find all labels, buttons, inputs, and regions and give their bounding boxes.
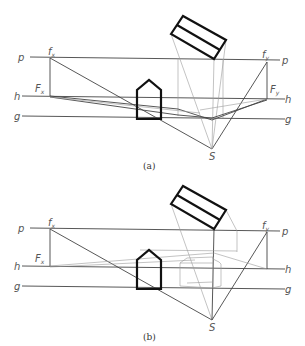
perspective-lines-lower (50, 97, 267, 118)
label-fx: fx (48, 46, 56, 58)
guide-fx-low (50, 260, 195, 267)
label-g-right: g (285, 114, 291, 125)
label-S: S (209, 151, 216, 162)
box-plan-midline (177, 195, 220, 220)
label-p-left: p (17, 52, 24, 63)
projector-3 (212, 40, 226, 149)
label-h-right: h (285, 264, 291, 275)
sightline-S-fx (50, 58, 212, 149)
box-plan-midline (177, 25, 220, 50)
perspective-line-mid2 (200, 99, 267, 110)
sightline-S-fx (50, 229, 212, 320)
guide-fy-roof (214, 253, 267, 269)
projector-1 (171, 34, 212, 149)
label-h-right: h (285, 94, 291, 105)
house-elevation (137, 250, 161, 289)
panel-a: p p h h g g fx fy Fx Fy S (a) (14, 16, 291, 171)
label-p-right: p (281, 55, 288, 66)
guide-top (140, 250, 237, 251)
label-h-left: h (14, 261, 20, 272)
label-Fx: Fx (35, 83, 45, 95)
panel-b: p p h h g g fx fy Fx S (b) (14, 186, 291, 342)
caption-a: (a) (143, 161, 155, 171)
label-g-left: g (14, 111, 20, 122)
picture-plane-line-p (30, 228, 280, 231)
guide-fx-roof (50, 253, 214, 266)
label-p-left: p (17, 223, 24, 234)
label-h-left: h (14, 91, 20, 102)
perspective-diagram: p p h h g g fx fy Fx Fy S (a) (0, 0, 305, 346)
sightline-S-fy (212, 232, 267, 320)
caption-b: (b) (143, 332, 156, 342)
label-g-right: g (285, 284, 291, 295)
projector-3 (226, 210, 237, 231)
sightline-S-fy (212, 62, 267, 149)
label-g-left: g (14, 281, 20, 292)
projected-house (180, 257, 221, 288)
label-p-right: p (281, 226, 288, 237)
perspective-line-mid (50, 97, 200, 113)
picture-plane-line-p (30, 57, 280, 60)
projected-house-base (187, 282, 213, 283)
label-fx: fx (48, 217, 56, 229)
label-Fy: Fy (270, 84, 280, 97)
label-S: S (209, 322, 216, 333)
label-Fx: Fx (35, 253, 45, 265)
projector-1 (171, 204, 212, 320)
